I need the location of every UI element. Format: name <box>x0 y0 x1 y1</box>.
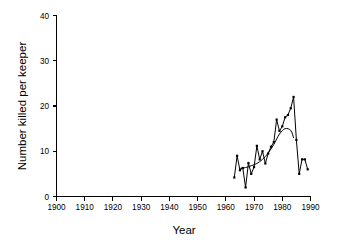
data-point-marker <box>247 162 249 164</box>
y-tick-label-10: 10 <box>40 147 50 156</box>
chart-plot-area: Number killed per keeper Year 0 10 20 30… <box>0 0 337 244</box>
data-point-marker <box>281 125 283 127</box>
x-tick-label-1990: 1990 <box>301 203 320 212</box>
data-point-marker <box>273 141 275 143</box>
data-point-marker <box>301 158 303 160</box>
data-point-marker <box>261 150 263 152</box>
x-tick-label-1920: 1920 <box>104 203 123 212</box>
data-point-marker <box>287 114 289 116</box>
x-tick-label-1940: 1940 <box>160 203 179 212</box>
x-tick-label-1900: 1900 <box>47 203 66 212</box>
x-tick-label-1910: 1910 <box>76 203 95 212</box>
data-point-marker <box>259 158 261 160</box>
x-tick-label-1960: 1960 <box>217 203 236 212</box>
data-point-marker <box>267 152 269 154</box>
x-axis-ticks: 1900 1910 1920 1930 1940 1950 1960 1970 … <box>47 197 320 213</box>
data-point-marker <box>253 166 255 168</box>
data-point-marker <box>284 116 286 118</box>
data-point-marker <box>292 96 294 98</box>
x-tick-label-1970: 1970 <box>245 203 264 212</box>
x-tick-label-1980: 1980 <box>273 203 292 212</box>
data-point-marker <box>304 158 306 160</box>
data-point-marker <box>233 176 235 178</box>
data-point-marker <box>307 168 309 170</box>
data-point-marker <box>244 186 246 188</box>
data-point-marker <box>298 173 300 175</box>
x-tick-label-1930: 1930 <box>132 203 151 212</box>
y-axis-title: Number killed per keeper <box>16 42 28 171</box>
data-point-marker <box>256 145 258 147</box>
x-tick-label-1950: 1950 <box>188 203 207 212</box>
data-point-marker <box>250 173 252 175</box>
data-point-marker <box>278 130 280 132</box>
data-point-marker <box>242 167 244 169</box>
y-tick-label-30: 30 <box>40 57 50 66</box>
y-tick-label-0: 0 <box>44 193 49 202</box>
data-point-marker <box>239 169 241 171</box>
data-point-marker <box>276 118 278 120</box>
data-point-markers <box>233 96 309 189</box>
y-axis-ticks: 0 10 20 30 40 <box>40 12 57 202</box>
series-group <box>233 96 309 189</box>
data-series-line <box>234 97 307 188</box>
y-tick-label-20: 20 <box>40 102 50 111</box>
data-point-marker <box>270 146 272 148</box>
data-point-marker <box>295 139 297 141</box>
data-point-marker <box>290 107 292 109</box>
data-point-marker <box>264 162 266 164</box>
chart-figure: Number killed per keeper Year 0 10 20 30… <box>0 0 337 244</box>
data-point-marker <box>236 155 238 157</box>
x-axis-title: Year <box>172 224 195 236</box>
y-tick-label-40: 40 <box>40 12 50 21</box>
